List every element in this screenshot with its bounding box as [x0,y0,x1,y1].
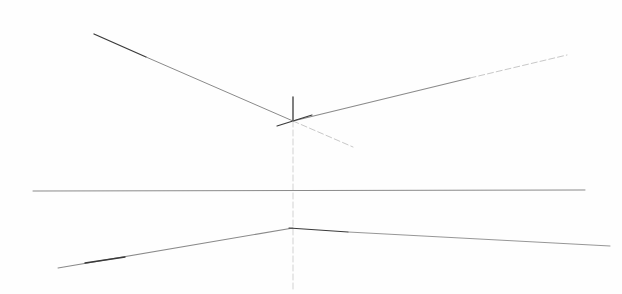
horizon-line [33,190,585,191]
upper-left-extension-faint [293,121,353,147]
perspective-sketch [0,0,622,294]
lower-right-receding-line-dark [289,228,348,232]
upper-right-receding-line-faint [470,55,567,78]
lower-right-receding-line [348,232,610,246]
sketch-canvas [0,0,622,294]
upper-right-receding-line [293,78,470,121]
lower-left-receding-line-dark [85,257,125,263]
upper-left-receding-line-dark [94,34,146,57]
upper-left-receding-line [146,57,293,121]
